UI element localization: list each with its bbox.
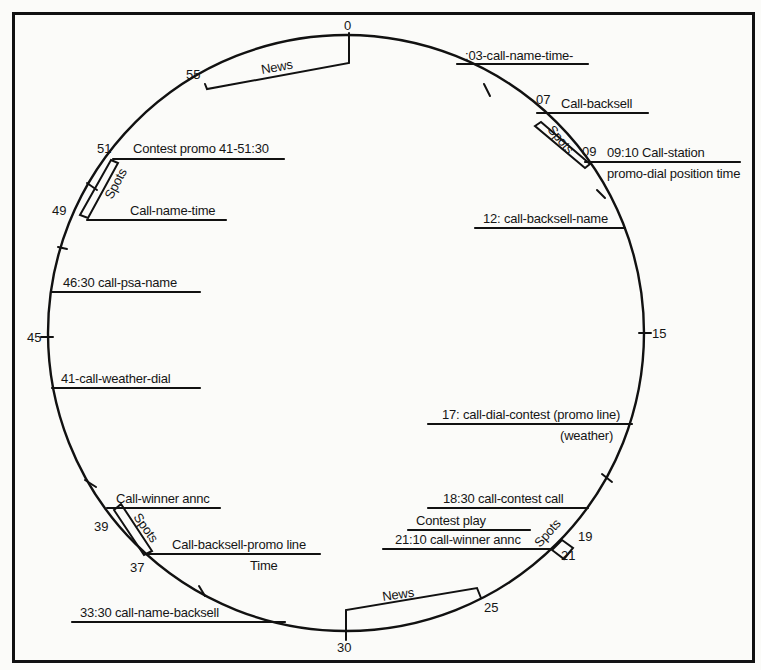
spots-label-19: Spots (531, 515, 564, 550)
annotation-09-line1: 09:10 Call-station (607, 145, 705, 160)
annotation-49: Call-name-time (130, 203, 215, 218)
minute-label-0: 0 (344, 18, 351, 33)
annotation-17-line1: 17: call-dial-contest (promo line) (442, 407, 620, 422)
minute-label-21: 21 (561, 548, 575, 563)
minute-label-37: 37 (130, 560, 144, 575)
hour-clock-diagram: 0 07 09 15 19 21 25 30 37 39 45 49 51 55… (0, 0, 761, 670)
annotation-contest-play: Contest play (416, 513, 487, 528)
minute-label-09: 09 (582, 144, 596, 159)
minute-label-51: 51 (97, 141, 111, 156)
news-label-bottom: News (381, 585, 415, 604)
annotation-1830: 18:30 call-contest call (443, 491, 564, 506)
annotation-12: 12: call-backsell-name (483, 211, 608, 226)
minute-label-49: 49 (52, 203, 66, 218)
annotation-4630: 46:30 call-psa-name (63, 275, 177, 290)
minute-label-45: 45 (27, 330, 41, 345)
annotation-03: :03-call-name-time- (465, 48, 573, 63)
minute-label-39: 39 (94, 519, 108, 534)
minute-label-25: 25 (484, 600, 498, 615)
annotation-17-line2: (weather) (560, 428, 613, 443)
annotation-2110: 21:10 call-winner annc (395, 532, 521, 547)
minute-label-07: 07 (536, 92, 550, 107)
minute-label-30: 30 (337, 640, 351, 655)
annotation-37-line1: Call-backsell-promo line (172, 537, 306, 552)
annotation-3330: 33:30 call-name-backsell (80, 605, 219, 620)
annotation-39: Call-winner annc (116, 491, 210, 506)
annotation-41: 41-call-weather-dial (61, 371, 171, 386)
annotation-51: Contest promo 41-51:30 (133, 141, 269, 156)
minute-label-55: 55 (186, 67, 200, 82)
minute-label-15: 15 (652, 326, 666, 341)
minute-label-19: 19 (578, 529, 592, 544)
annotation-37-line2: Time (250, 558, 278, 573)
annotation-09-line2: promo-dial position time (607, 166, 740, 181)
annotation-07: Call-backsell (561, 96, 632, 111)
